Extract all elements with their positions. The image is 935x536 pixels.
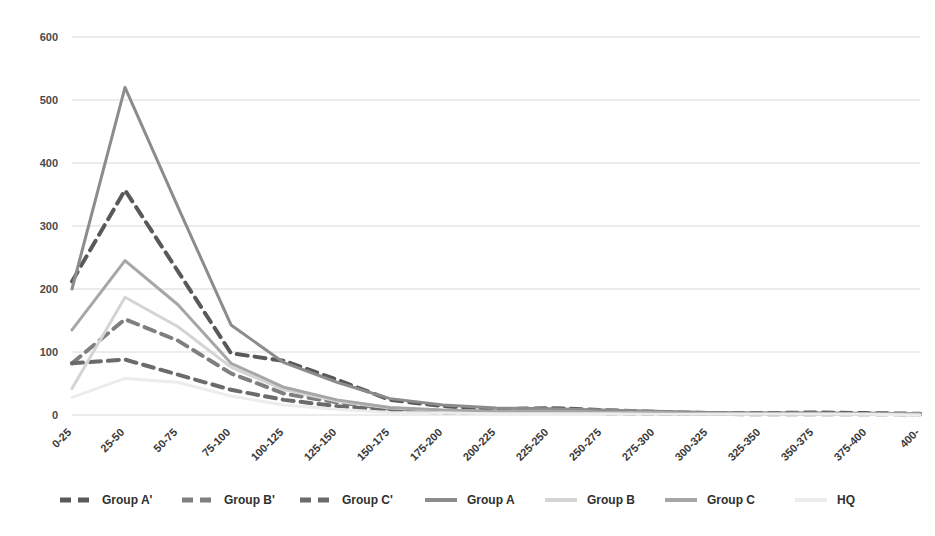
y-axis-tick-label: 0 [52, 409, 58, 421]
legend-label-2[interactable]: Group B' [224, 493, 275, 507]
y-axis-tick-label: 200 [40, 283, 58, 295]
legend-label-7[interactable]: HQ [837, 493, 855, 507]
legend-label-6[interactable]: Group C [707, 493, 755, 507]
y-axis-tick-label: 600 [40, 31, 58, 43]
y-axis-tick-label: 400 [40, 157, 58, 169]
legend-label-3[interactable]: Group C' [342, 493, 393, 507]
y-axis-tick-label: 500 [40, 94, 58, 106]
legend-label-1[interactable]: Group A' [102, 493, 153, 507]
legend-label-5[interactable]: Group B [587, 493, 635, 507]
chart-canvas: 0100200300400500600 0-2525-5050-7575-100… [0, 0, 935, 536]
y-axis-tick-label: 100 [40, 346, 58, 358]
legend-label-4[interactable]: Group A [467, 493, 515, 507]
line-chart: 0100200300400500600 0-2525-5050-7575-100… [0, 0, 935, 536]
y-axis-tick-label: 300 [40, 220, 58, 232]
